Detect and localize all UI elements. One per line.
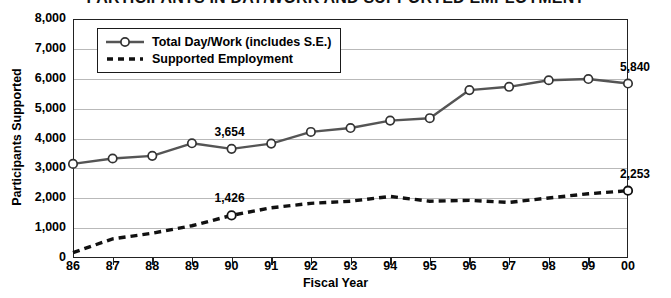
x-tick-mark: [113, 258, 114, 265]
x-tick-mark: [152, 258, 153, 265]
x-tick-mark: [271, 258, 272, 265]
data-point-marker: [148, 152, 156, 160]
data-point-marker: [386, 116, 394, 124]
legend: Total Day/Work (includes S.E.) Supported…: [97, 28, 341, 73]
legend-item-supported-employment: Supported Employment: [105, 50, 331, 67]
x-tick-mark: [509, 258, 510, 265]
data-point-marker: [69, 160, 77, 168]
x-tick-mark: [192, 258, 193, 265]
data-point-marker: [624, 186, 632, 194]
data-point-marker: [465, 86, 473, 94]
data-label: 1,426: [215, 191, 245, 205]
x-tick-mark: [549, 258, 550, 265]
x-tick-mark: [469, 258, 470, 265]
data-point-marker: [227, 211, 235, 219]
data-label: 2,253: [620, 167, 650, 181]
data-point-marker: [227, 145, 235, 153]
x-tick-label: 86: [53, 259, 93, 273]
legend-label-total-day-work: Total Day/Work (includes S.E.): [152, 35, 331, 49]
data-point-marker: [307, 128, 315, 136]
series-line-total-day-work: [73, 79, 628, 164]
data-point-marker: [346, 124, 354, 132]
data-point-marker: [505, 83, 513, 91]
x-tick-mark: [232, 258, 233, 265]
data-label: 3,654: [215, 125, 245, 139]
line-circle-marker-icon: [105, 35, 145, 49]
data-point-marker: [624, 79, 632, 87]
series-line-supported-employment: [73, 191, 628, 253]
data-point-marker: [584, 75, 592, 83]
dashed-line-icon: [105, 52, 145, 66]
data-point-marker: [426, 114, 434, 122]
legend-item-total-day-work: Total Day/Work (includes S.E.): [105, 33, 331, 50]
data-point-marker: [267, 139, 275, 147]
x-tick-mark: [430, 258, 431, 265]
data-point-marker: [108, 154, 116, 162]
data-point-marker: [545, 76, 553, 84]
x-tick-label: 00: [608, 259, 648, 273]
x-tick-mark: [390, 258, 391, 265]
data-label: 5,840: [620, 60, 650, 74]
x-axis-title: Fiscal Year: [0, 276, 671, 290]
x-tick-mark: [311, 258, 312, 265]
x-tick-mark: [351, 258, 352, 265]
data-point-marker: [188, 139, 196, 147]
line-chart: PARTICIPANTS IN DAY/WORK AND SUPPORTED E…: [0, 0, 671, 298]
x-tick-mark: [588, 258, 589, 265]
legend-label-supported-employment: Supported Employment: [152, 52, 293, 66]
